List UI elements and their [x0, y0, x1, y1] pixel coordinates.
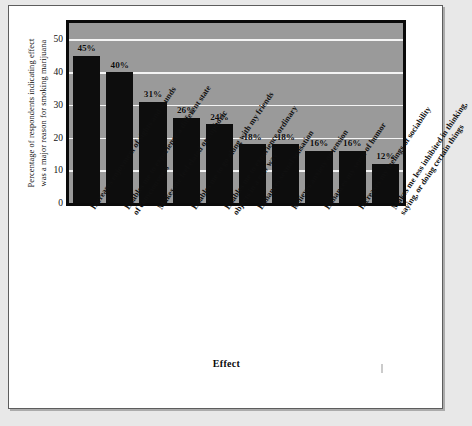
figure-frame: Percentage of respondents indicating eff… — [8, 5, 443, 409]
y-axis-tick-10: 10 — [39, 165, 63, 175]
x-axis-category-labels: Increases enjoyment of sights and sounds… — [66, 206, 406, 356]
x-axis-title: Effect — [9, 358, 444, 369]
bar-value-label: 31% — [144, 89, 162, 99]
y-axis-tick-40: 40 — [39, 67, 63, 77]
page-artifact-mark — [381, 364, 383, 373]
y-axis-tick-20: 20 — [39, 133, 63, 143]
x-axis-category-label-line: saying, or doing certain things — [398, 106, 472, 218]
y-axis-tick-50: 50 — [39, 34, 63, 44]
y-axis-tick-0: 0 — [39, 198, 63, 208]
bar-value-label: 45% — [77, 43, 95, 53]
y-axis-tick-30: 30 — [39, 100, 63, 110]
bar-slot: 45% — [70, 23, 103, 203]
y-axis-tick-labels: 01020304050 — [39, 20, 63, 212]
bar-chart-figure: Percentage of respondents indicating eff… — [9, 6, 444, 410]
bar[interactable]: 45% — [73, 56, 100, 203]
bar-value-label: 40% — [111, 60, 129, 70]
y-axis-title-line-1: Percentage of respondents indicating eff… — [26, 15, 38, 211]
